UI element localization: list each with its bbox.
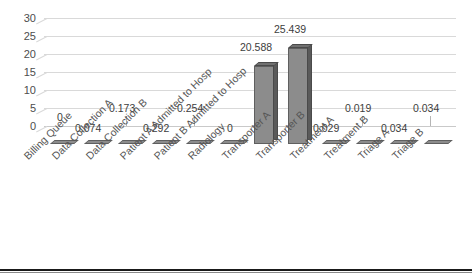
gridline-30 xyxy=(44,18,456,19)
bar-chart: 30 25 20 15 10 5 0 xyxy=(0,0,472,277)
bottom-divider-secondary xyxy=(0,272,472,273)
gridline-stub xyxy=(36,18,47,24)
bar-body xyxy=(322,140,351,144)
bar-body xyxy=(186,140,215,144)
gridline-stub xyxy=(36,126,47,132)
gridline-stub xyxy=(36,90,47,96)
value-label-billing-queue: 0 xyxy=(57,112,63,123)
y-axis-tick: 15 xyxy=(8,67,36,78)
y-axis-tick: 0 xyxy=(8,121,36,132)
bar-body xyxy=(220,140,249,144)
y-axis-tick: 20 xyxy=(8,49,36,60)
bar-body xyxy=(50,140,79,144)
bar-patient-b-admitted xyxy=(184,32,218,144)
bar-triage-b xyxy=(422,32,456,144)
gridline-stub xyxy=(36,72,47,78)
value-label-patient-a-admitted: 0.292 xyxy=(143,123,169,134)
value-label-treatment-b: 0.019 xyxy=(345,103,371,114)
bar-body xyxy=(424,140,453,144)
bar-body-side xyxy=(273,62,278,140)
bar-body xyxy=(118,140,147,144)
gridline-stub xyxy=(36,108,47,114)
bar-body-side xyxy=(307,44,312,140)
value-leader-line xyxy=(362,116,363,126)
gridline-stub xyxy=(36,36,47,42)
value-label-radiology: 0 xyxy=(227,123,233,134)
bar-body xyxy=(84,140,113,144)
bar-body xyxy=(356,140,385,144)
value-leader-line xyxy=(126,116,127,126)
bar-body xyxy=(288,48,308,144)
gridline-stub xyxy=(36,54,47,60)
value-label-data-collection-b: 0.173 xyxy=(109,103,135,114)
value-label-triage-b: 0.034 xyxy=(413,103,439,114)
bar-body xyxy=(254,66,274,144)
plot-area: 0 0.074 0.173 0.292 0.254 0 20.588 25.43… xyxy=(44,18,456,144)
value-leader-line xyxy=(430,116,431,126)
bar-body xyxy=(390,140,419,144)
y-axis: 30 25 20 15 10 5 0 xyxy=(0,0,36,144)
bottom-divider xyxy=(0,269,472,271)
value-label-transporter-a: 20.588 xyxy=(240,42,272,53)
y-axis-tick: 10 xyxy=(8,85,36,96)
bar-body xyxy=(152,140,181,144)
y-axis-tick: 5 xyxy=(8,103,36,114)
value-label-triage-a: 0.034 xyxy=(381,123,407,134)
value-leader-line xyxy=(194,116,195,126)
value-label-treatment-a: 0.029 xyxy=(313,123,339,134)
y-axis-tick: 30 xyxy=(8,13,36,24)
y-axis-tick: 25 xyxy=(8,31,36,42)
value-label-data-collection-a: 0.074 xyxy=(75,123,101,134)
value-label-patient-b-admitted: 0.254 xyxy=(177,103,203,114)
value-label-transporter-b: 25.439 xyxy=(274,24,306,35)
